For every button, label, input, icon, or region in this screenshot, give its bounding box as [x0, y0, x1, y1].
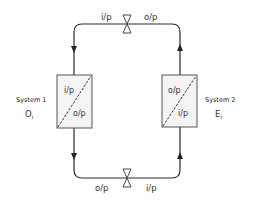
flow-arrow-up-bottom-right — [177, 152, 183, 159]
system-loop-diagram: i/p o/p o/p i/p i/p o/p System 1 Oi o/p … — [0, 0, 261, 209]
system2-box-bottom-label: i/p — [178, 109, 188, 118]
system1-box-bottom-label: o/p — [73, 109, 86, 118]
system1-box: i/p o/p — [57, 75, 92, 128]
system2-name: System 2 — [205, 96, 235, 104]
system2-symbol: Ei — [215, 109, 222, 120]
flow-arrow-down-bottom-left — [71, 153, 77, 160]
system2-box: o/p i/p — [162, 75, 197, 127]
flow-arrow-down-top-left — [71, 46, 77, 53]
bottom-right-label: i/p — [146, 183, 157, 193]
top-right-label: o/p — [144, 12, 157, 22]
top-left-label: i/p — [101, 12, 112, 22]
system1-box-top-label: i/p — [64, 86, 74, 95]
bottom-left-label: o/p — [95, 183, 108, 193]
system1-name: System 1 — [16, 96, 46, 104]
system2-box-top-label: o/p — [168, 86, 181, 95]
flow-arrow-up-top-right — [177, 44, 183, 51]
system1-symbol: Oi — [25, 109, 34, 120]
